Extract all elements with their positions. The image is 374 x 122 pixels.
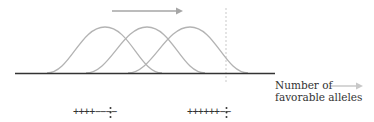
axis-label-line2: favorable alleles	[275, 91, 362, 103]
axis-label-line1: Number of	[275, 79, 362, 91]
axis-label: Number of favorable alleles	[275, 79, 362, 103]
distribution-curve-3	[128, 27, 248, 73]
left-genotype-list: ++++−−−− −+−−++−−	[73, 84, 116, 122]
shift-arrow-top	[112, 8, 183, 15]
right-genotype-list: ++++++−− +−++++ +−	[187, 84, 236, 122]
distribution-curve-2	[86, 27, 205, 73]
genotype-row: ++++−−−−	[73, 106, 116, 117]
genotype-row: ++++++−−	[187, 106, 236, 117]
